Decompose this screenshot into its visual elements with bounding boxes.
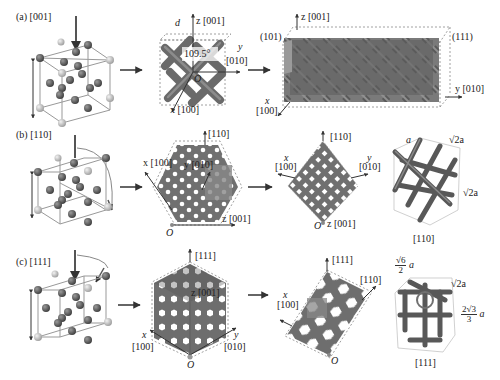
panel-label-b: (b) [110] <box>16 130 51 140</box>
b-cell-a-label: a <box>406 135 411 145</box>
row-b-slab <box>278 131 368 225</box>
b-proj-y-label: y [010] <box>184 160 213 170</box>
fraction: √6 2 <box>395 256 406 276</box>
a-cell-y-label: y <box>238 42 242 52</box>
b-proj-x-label: x [100] <box>143 158 172 168</box>
b-slab-y-dir-label: [010] <box>359 162 381 172</box>
suffix: a <box>409 259 414 270</box>
b-proj-origin-label: O <box>166 228 173 238</box>
suffix: a <box>479 308 484 319</box>
b-slab-origin-label: O <box>314 221 321 231</box>
c-proj-y-label: y <box>234 330 238 340</box>
panel-label-a: (a) [001] <box>16 12 51 22</box>
c-proj-origin-label: O <box>187 360 194 370</box>
denominator: 2 <box>398 266 403 275</box>
c-cell-top-label: √6 2 a <box>395 256 414 276</box>
b-slab-x-dir-label: [100] <box>275 162 297 172</box>
view-direction: [111] <box>30 256 51 267</box>
panel-letter: (a) <box>16 11 27 22</box>
row-c-cell-strut <box>395 278 455 352</box>
c-cell-right-label: 2√3 3 a <box>461 305 484 325</box>
row-b-fcc-cell <box>32 135 112 226</box>
c-proj-x-dir-label: [100] <box>132 342 154 352</box>
panel-letter: (b) <box>16 129 28 140</box>
c-slab-right-label: [110] <box>360 275 381 285</box>
a-cell-d-label: d <box>175 18 180 28</box>
a-cell-angle-label: 109.5° <box>184 49 211 59</box>
c-slab-x-dir-label: [100] <box>277 300 299 310</box>
panel-letter: (c) <box>16 256 27 267</box>
b-proj-top-label: [110] <box>208 129 229 139</box>
view-direction: [001] <box>30 11 52 22</box>
a-cell-origin-label: O <box>194 74 201 84</box>
figure-graphics <box>0 0 500 380</box>
b-proj-z-label: z [001] <box>222 214 251 224</box>
c-slab-top-label: [111] <box>332 255 353 265</box>
c-proj-z-label: z [001] <box>191 288 220 298</box>
c-cell-caption: [111] <box>415 358 436 368</box>
c-proj-y-dir-label: [010] <box>224 342 246 352</box>
a-cell-z-label: z [001] <box>196 16 225 26</box>
c-proj-x-label: x <box>142 330 146 340</box>
c-slab-origin-label: O <box>331 356 338 366</box>
c-cell-top-right-label: √2a <box>451 279 466 289</box>
row-a-bulk-lattice <box>278 14 462 116</box>
c-proj-top-label: [111] <box>195 251 216 261</box>
row-b-cell-strut <box>394 138 460 225</box>
b-cell-caption: [110] <box>413 234 434 244</box>
fraction: 2√3 3 <box>461 305 477 325</box>
row-a-fcc-cell <box>33 16 114 127</box>
a-cell-y-dir-label: [010] <box>226 56 248 66</box>
view-direction: [110] <box>30 129 51 140</box>
denominator: 3 <box>467 315 472 324</box>
a-cell-x-label: x [100] <box>170 105 199 115</box>
b-cell-top-right-label: √2a <box>449 135 464 145</box>
a-bulk-y-label: y [010] <box>455 84 484 94</box>
b-slab-top-label: [110] <box>330 132 351 142</box>
b-slab-z-label: z [001] <box>327 219 356 229</box>
b-cell-right-label: √2a <box>463 188 478 198</box>
a-bulk-plane-101: (101) <box>260 32 282 42</box>
a-bulk-plane-111: (111) <box>452 32 473 42</box>
panel-label-c: (c) [111] <box>16 257 51 267</box>
a-bulk-x-dir-label: [100] <box>256 106 278 116</box>
a-bulk-z-label: z [001] <box>301 12 330 22</box>
